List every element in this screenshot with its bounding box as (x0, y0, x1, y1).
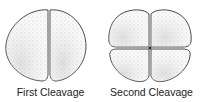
two-cell-embryo-illustration (0, 0, 101, 86)
second-cleavage-figure: Second Cleavage (101, 0, 202, 102)
first-cleavage-figure: First Cleavage (0, 0, 101, 102)
four-cell-embryo-illustration (101, 0, 202, 86)
second-cleavage-label: Second Cleavage (101, 86, 202, 98)
first-cleavage-label: First Cleavage (0, 86, 101, 98)
